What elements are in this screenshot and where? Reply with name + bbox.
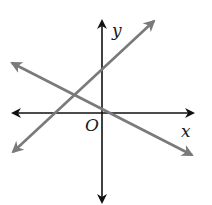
- x-axis-label: x: [181, 121, 191, 141]
- coordinate-plane: y O x: [0, 0, 212, 205]
- line-positive-slope: [13, 21, 154, 152]
- origin-label: O: [85, 115, 99, 135]
- y-axis-label: y: [111, 20, 122, 40]
